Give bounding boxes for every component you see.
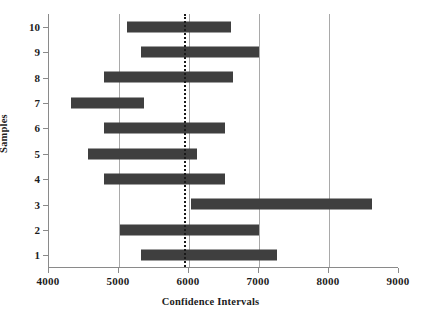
x-axis-title: Confidence Intervals (0, 296, 421, 307)
bar-row (49, 116, 398, 141)
interval-bar-sample-10 (127, 21, 231, 32)
x-tick-7000 (258, 268, 259, 273)
y-tick-label-4: 4 (35, 173, 41, 185)
bar-row (49, 65, 398, 90)
y-tick-label-5: 5 (35, 148, 41, 160)
interval-bar-sample-8 (104, 72, 233, 83)
x-tick-label-5000: 5000 (107, 275, 130, 287)
x-tick-8000 (328, 268, 329, 273)
bar-row (49, 217, 398, 242)
x-tick-label-7000: 7000 (247, 275, 270, 287)
confidence-interval-chart: Samples 10987654321 40005000600070008000… (0, 0, 421, 323)
y-tick-label-7: 7 (35, 97, 41, 109)
bar-row (49, 141, 398, 166)
bar-row (49, 166, 398, 191)
x-tick-label-8000: 8000 (317, 275, 340, 287)
interval-bar-sample-6 (104, 123, 224, 134)
y-axis-title: Samples (0, 114, 9, 153)
bar-row (49, 243, 398, 268)
true-mean-reference-line (184, 14, 186, 267)
x-tick-label-6000: 6000 (177, 275, 200, 287)
interval-bar-sample-1 (141, 250, 278, 261)
x-axis: 400050006000700080009000 (48, 268, 398, 276)
interval-bar-sample-5 (88, 148, 197, 159)
interval-bar-sample-2 (120, 224, 259, 235)
y-tick-label-10: 10 (29, 21, 40, 33)
y-tick-label-2: 2 (35, 224, 41, 236)
interval-bar-sample-3 (191, 199, 372, 210)
bar-row (49, 192, 398, 217)
interval-bar-sample-4 (104, 174, 224, 185)
bar-row (49, 90, 398, 115)
y-tick-label-3: 3 (35, 199, 41, 211)
x-tick-label-4000: 4000 (37, 275, 60, 287)
y-tick-label-6: 6 (35, 122, 41, 134)
x-tick-4000 (48, 268, 49, 273)
bar-row (49, 14, 398, 39)
interval-bar-sample-7 (71, 97, 145, 108)
x-tick-9000 (398, 268, 399, 273)
plot-area (48, 14, 398, 268)
y-tick-label-8: 8 (35, 72, 41, 84)
x-tick-5000 (118, 268, 119, 273)
x-tick-label-9000: 9000 (387, 275, 410, 287)
x-tick-6000 (188, 268, 189, 273)
bar-row (49, 39, 398, 64)
interval-bar-sample-9 (141, 47, 259, 58)
y-tick-label-1: 1 (35, 249, 41, 261)
y-tick-label-9: 9 (35, 46, 41, 58)
